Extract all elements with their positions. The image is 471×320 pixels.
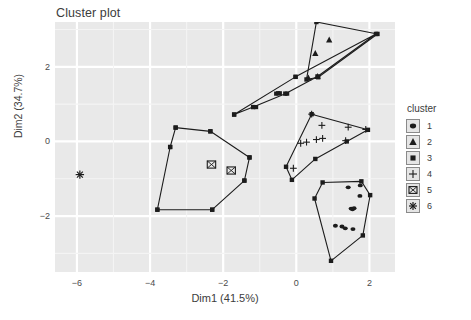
x-axis-label: Dim1 (41.5%)	[55, 292, 395, 304]
legend-item-label: 2	[427, 137, 432, 147]
hull-vertex-marker	[329, 259, 333, 263]
cluster-plot-figure: Cluster plot −6−4−202 20−2 Dim2 (34.7%) …	[0, 0, 471, 320]
legend-item-6[interactable]: 6	[406, 198, 466, 214]
cluster-hull-2	[307, 22, 378, 79]
filled-circle-icon	[406, 119, 420, 133]
legend-item-4[interactable]: 4	[406, 166, 466, 182]
legend-item-label: 1	[427, 121, 432, 131]
data-point-cluster-1	[352, 206, 357, 210]
y-axis-label: Dim2 (34.7%)	[12, 46, 24, 166]
data-point-cluster-3	[278, 91, 282, 95]
data-point-cluster-4	[318, 122, 325, 129]
x-tick-label: 0	[294, 278, 299, 288]
data-point-cluster-3	[232, 112, 236, 116]
square-cross-glyph	[409, 187, 417, 194]
x-tick-label: 2	[367, 278, 372, 288]
plot-canvas	[55, 22, 395, 272]
legend-entries: 123456	[406, 118, 466, 214]
filled-square-icon	[406, 151, 420, 165]
plus-glyph	[409, 170, 417, 178]
y-tick-label: 2	[30, 62, 50, 72]
legend-title: cluster	[407, 103, 466, 114]
legend: cluster 123456	[406, 103, 466, 214]
data-point-cluster-2	[326, 37, 332, 43]
data-point-cluster-3	[174, 126, 178, 130]
cluster-hull-secondary-3	[234, 34, 376, 115]
plot-panel	[55, 22, 395, 272]
hull-vertex-marker	[368, 193, 372, 197]
square-cross-icon	[406, 183, 420, 197]
y-tick-label: 0	[30, 136, 50, 146]
hull-vertex-marker	[320, 180, 324, 184]
data-point-cluster-1	[358, 184, 363, 188]
cluster-series-3	[155, 75, 297, 212]
legend-item-2[interactable]: 2	[406, 134, 466, 150]
legend-item-label: 4	[427, 169, 432, 179]
hull-vertex-marker	[284, 165, 288, 169]
data-point-cluster-3	[247, 155, 251, 159]
y-tick-label: −2	[30, 211, 50, 221]
asterisk-glyph	[409, 202, 417, 210]
x-tick-label: −2	[218, 278, 228, 288]
hull-vertex-marker	[313, 157, 317, 161]
cluster-series-5	[207, 161, 235, 174]
data-point-cluster-3	[168, 145, 172, 149]
cluster-series-1	[333, 184, 363, 231]
data-point-cluster-3	[242, 179, 246, 183]
plus-icon	[406, 167, 420, 181]
data-point-cluster-6	[76, 170, 84, 178]
page-title: Cluster plot	[56, 6, 120, 20]
legend-item-label: 3	[427, 153, 432, 163]
x-tick-label: −6	[72, 278, 82, 288]
data-point-cluster-4	[308, 111, 315, 118]
filled-circle-glyph	[410, 124, 416, 129]
hull-vertex-marker	[314, 22, 318, 24]
hull-vertex-marker	[361, 233, 365, 237]
data-point-cluster-4	[303, 139, 310, 146]
x-tick-label: −4	[145, 278, 155, 288]
data-point-cluster-5	[207, 161, 215, 168]
hull-vertex-marker	[290, 178, 294, 182]
hull-vertex-marker	[374, 32, 378, 36]
asterisk-icon	[406, 199, 420, 213]
cluster-hull-1	[315, 181, 371, 260]
data-point-cluster-3	[210, 208, 214, 212]
data-point-cluster-1	[346, 185, 351, 189]
data-point-cluster-1	[333, 224, 338, 228]
cluster-series-2	[305, 37, 332, 81]
legend-item-label: 6	[427, 201, 432, 211]
filled-square-glyph	[410, 155, 415, 160]
data-point-cluster-1	[350, 227, 355, 231]
data-point-cluster-3	[254, 105, 258, 109]
legend-item-label: 5	[427, 185, 432, 195]
cluster-hull-4	[286, 114, 368, 180]
data-point-cluster-3	[293, 75, 297, 79]
filled-triangle-glyph	[409, 138, 416, 145]
hull-vertex-marker	[359, 179, 363, 183]
data-point-cluster-3	[285, 92, 289, 96]
legend-item-3[interactable]: 3	[406, 150, 466, 166]
legend-item-5[interactable]: 5	[406, 182, 466, 198]
hull-vertex-marker	[312, 196, 316, 200]
data-point-cluster-2	[312, 50, 318, 56]
cluster-series-6	[76, 170, 84, 178]
data-point-cluster-3	[155, 208, 159, 212]
filled-triangle-icon	[406, 135, 420, 149]
data-point-cluster-1	[339, 225, 344, 229]
data-point-cluster-5	[227, 167, 235, 174]
data-point-cluster-1	[357, 194, 362, 198]
legend-item-1[interactable]: 1	[406, 118, 466, 134]
data-point-cluster-3	[208, 129, 212, 133]
